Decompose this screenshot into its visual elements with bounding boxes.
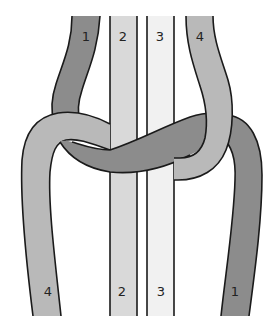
label-bottom-1: 1 bbox=[231, 284, 239, 299]
label-bottom-4: 4 bbox=[44, 284, 52, 299]
knot-diagram: 1 2 3 4 4 2 3 1 bbox=[0, 0, 279, 336]
label-top-4: 4 bbox=[196, 29, 204, 44]
strand-1-upper bbox=[52, 16, 100, 122]
label-bottom-2: 2 bbox=[118, 284, 126, 299]
label-top-2: 2 bbox=[119, 29, 127, 44]
label-top-3: 3 bbox=[156, 29, 164, 44]
label-bottom-3: 3 bbox=[157, 284, 165, 299]
label-top-1: 1 bbox=[82, 29, 90, 44]
